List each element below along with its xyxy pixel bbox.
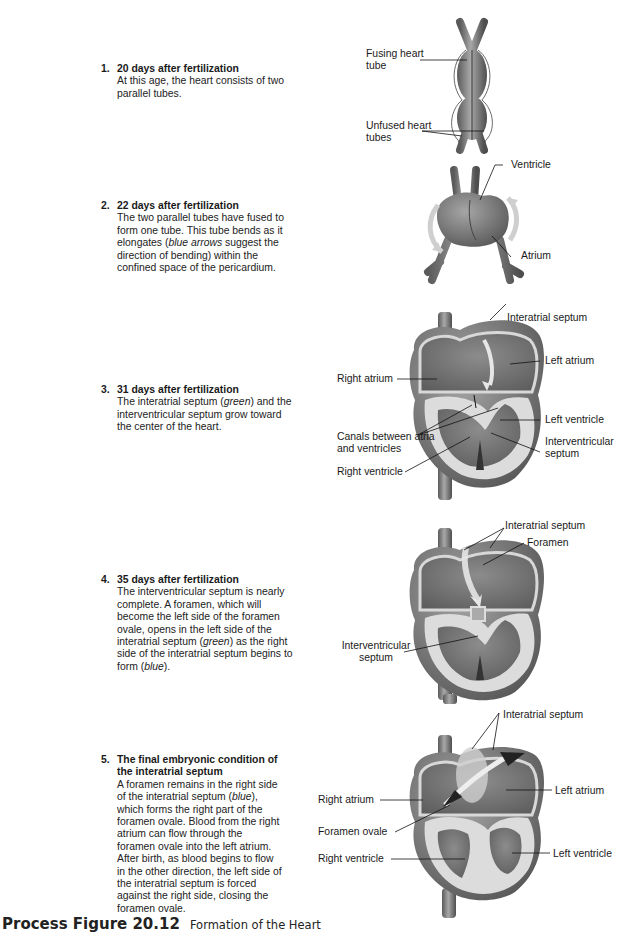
label-ventricle: Ventricle (511, 159, 551, 171)
label-left-ventricle: Left ventricle (553, 848, 612, 860)
step-title: 35 days after fertilization (117, 574, 296, 586)
label-fusing-heart-tube: Fusing heart tube (366, 48, 426, 73)
label-left-atrium: Left atrium (545, 355, 594, 367)
label-left-ventricle: Left ventricle (545, 414, 604, 426)
step-description: A foramen remains in the right side of t… (117, 779, 283, 915)
step-number: 4. (101, 574, 110, 586)
step-number: 5. (101, 754, 110, 766)
step-title: 31 days after fertilization (117, 384, 296, 396)
figure-title: Formation of the Heart (190, 918, 321, 932)
label-interatrial-septum: Interatrial septum (503, 709, 583, 721)
label-right-ventricle: Right ventricle (318, 853, 384, 865)
step-title: 20 days after fertilization (117, 63, 296, 75)
step-description: The interventricular septum is nearly co… (117, 586, 296, 673)
step-2: 2. 22 days after fertilization The two p… (101, 200, 296, 274)
step-1: 1. 20 days after fertilization At this a… (101, 63, 296, 100)
label-interventricular-septum: Interventricular septum (545, 436, 635, 461)
label-foramen-ovale: Foramen ovale (318, 826, 387, 838)
label-interventricular-septum: Interventricular septum (337, 640, 415, 665)
label-right-ventricle: Right ventricle (337, 466, 403, 478)
step-description: The interatrial septum (green) and the i… (117, 396, 296, 433)
step-3: 3. 31 days after fertilization The inter… (101, 384, 296, 434)
fig3-heart-section (397, 304, 544, 500)
label-interatrial-septum: Interatrial septum (505, 520, 585, 532)
label-foramen: Foramen (527, 537, 569, 549)
label-atrium: Atrium (521, 250, 551, 262)
step-description: The two parallel tubes have fused to for… (117, 212, 296, 274)
step-description: At this age, the heart consists of two p… (117, 75, 296, 100)
fig5-heart-section (380, 694, 552, 918)
step-title: The final embryonic condition of the int… (117, 754, 283, 779)
step-number: 2. (101, 200, 110, 212)
label-right-atrium: Right atrium (337, 373, 393, 385)
fig4-heart-section (404, 528, 544, 700)
label-right-atrium: Right atrium (318, 794, 374, 806)
label-canals-between-atria-and-ventricles: Canals between atria and ventricles (337, 431, 437, 456)
label-interatrial-septum: Interatrial septum (507, 312, 587, 324)
step-5: 5. The final embryonic condition of the … (101, 754, 283, 915)
step-title: 22 days after fertilization (117, 200, 296, 212)
step-number: 3. (101, 384, 110, 396)
fig2-bending-heart (428, 165, 520, 280)
figure-number: Process Figure 20.12 (2, 915, 180, 933)
step-number: 1. (101, 63, 110, 75)
label-left-atrium: Left atrium (555, 785, 604, 797)
label-unfused-heart-tubes: Unfused heart tubes (366, 120, 432, 145)
step-4: 4. 35 days after fertilization The inter… (101, 574, 296, 673)
figure-caption: Process Figure 20.12Formation of the Hea… (2, 915, 321, 933)
